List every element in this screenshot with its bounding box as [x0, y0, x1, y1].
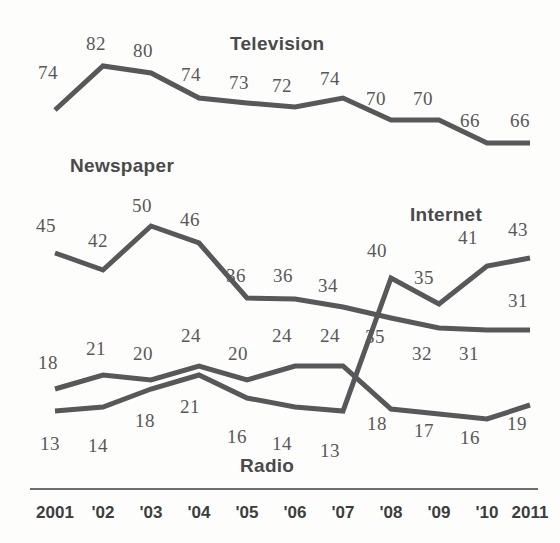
value-label-radio-10: 19	[507, 413, 527, 435]
value-label-newspaper-2: 50	[132, 195, 152, 217]
value-label-radio-0: 18	[38, 352, 58, 374]
value-label-internet-2: 18	[135, 410, 155, 432]
value-label-television-4: 73	[229, 72, 249, 94]
x-tick-05: '05	[236, 503, 259, 523]
value-label-newspaper-5: 36	[273, 265, 293, 287]
value-label-television-3: 74	[181, 64, 201, 86]
value-label-television-5: 72	[272, 75, 292, 97]
value-label-newspaper-3: 46	[180, 209, 200, 231]
value-label-newspaper-10: 31	[508, 290, 528, 312]
value-label-television-7: 70	[366, 88, 386, 110]
value-label-radio-2: 20	[133, 343, 153, 365]
x-tick-2011: 2011	[512, 503, 549, 523]
value-label-internet-3: 21	[180, 396, 200, 418]
x-tick-09: '09	[428, 503, 451, 523]
value-label-internet-10: 43	[508, 219, 528, 241]
x-tick-10: '10	[476, 503, 499, 523]
value-label-radio-7: 18	[367, 413, 387, 435]
x-tick-02: '02	[92, 503, 115, 523]
value-label-radio-5: 24	[272, 325, 292, 347]
x-tick-07: '07	[332, 503, 355, 523]
value-label-radio-3: 24	[181, 325, 201, 347]
value-label-internet-5: 14	[272, 433, 292, 455]
x-tick-06: '06	[284, 503, 307, 523]
value-label-internet-1: 14	[88, 435, 108, 457]
value-label-television-9: 66	[460, 110, 480, 132]
value-label-internet-4: 16	[227, 426, 247, 448]
value-label-television-0: 74	[38, 62, 58, 84]
x-tick-2001: 2001	[36, 503, 74, 523]
value-label-newspaper-4: 36	[226, 265, 246, 287]
value-label-radio-1: 21	[86, 338, 106, 360]
value-label-television-8: 70	[413, 88, 433, 110]
series-label-radio: Radio	[240, 455, 294, 477]
value-label-newspaper-1: 42	[88, 230, 108, 252]
value-label-radio-9: 16	[460, 427, 480, 449]
value-label-internet-0: 13	[40, 433, 60, 455]
series-line-television	[55, 66, 530, 143]
value-label-radio-6: 24	[320, 325, 340, 347]
value-label-radio-8: 17	[414, 420, 434, 442]
x-tick-04: '04	[188, 503, 211, 523]
value-label-newspaper-8: 32	[412, 343, 432, 365]
value-label-television-2: 80	[133, 40, 153, 62]
value-label-newspaper-0: 45	[36, 215, 56, 237]
series-label-newspaper: Newspaper	[70, 155, 174, 177]
value-label-radio-4: 20	[228, 343, 248, 365]
series-label-television: Television	[230, 33, 325, 55]
value-label-newspaper-6: 34	[318, 275, 338, 297]
value-label-television-6: 74	[320, 68, 340, 90]
x-axis-rule	[30, 488, 538, 490]
value-label-newspaper-7: 35	[365, 326, 385, 348]
x-tick-03: '03	[140, 503, 163, 523]
value-label-television-10: 66	[510, 110, 530, 132]
x-tick-08: '08	[380, 503, 403, 523]
value-label-television-1: 82	[86, 33, 106, 55]
value-label-internet-7: 40	[367, 240, 387, 262]
value-label-internet-6: 13	[320, 440, 340, 462]
value-label-newspaper-9: 31	[459, 343, 479, 365]
value-label-internet-9: 41	[458, 227, 478, 249]
value-label-internet-8: 35	[414, 267, 434, 289]
series-label-internet: Internet	[410, 204, 482, 226]
news-source-trend-chart: Television Newspaper Internet Radio 7482…	[0, 0, 560, 543]
series-line-radio	[55, 366, 530, 419]
